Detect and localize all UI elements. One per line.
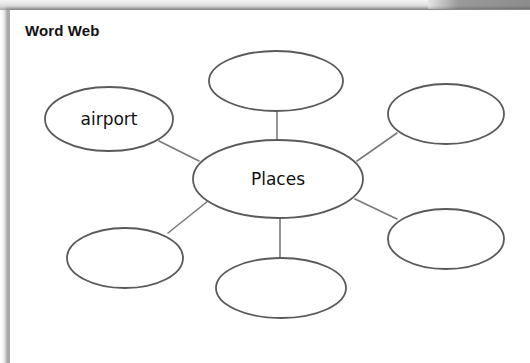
connector-line-lower-right [355, 199, 397, 219]
worksheet-page: Word Web Placesairport [0, 0, 530, 363]
oval-lower-left[interactable] [67, 228, 183, 288]
connector-line-upper-left [159, 141, 199, 161]
center-label: Places [251, 169, 305, 189]
oval-lower-right[interactable] [388, 209, 504, 269]
oval-top[interactable] [209, 51, 343, 111]
connector-line-lower-left [168, 201, 208, 233]
oval-label-upper-left: airport [81, 109, 138, 129]
connector-line-upper-right [357, 133, 397, 161]
oval-upper-right[interactable] [388, 84, 504, 144]
oval-bottom[interactable] [216, 258, 346, 318]
